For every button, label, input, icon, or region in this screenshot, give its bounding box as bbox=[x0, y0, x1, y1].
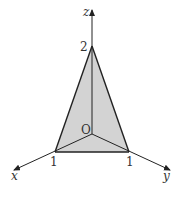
x-axis-label: x bbox=[11, 169, 18, 183]
tetrahedron-diagram: z 2 O 1 1 x y bbox=[0, 0, 184, 199]
origin-label: O bbox=[81, 123, 91, 137]
y-axis-label: y bbox=[162, 169, 170, 183]
x-intercept-label: 1 bbox=[50, 155, 58, 169]
z-axis-label: z bbox=[82, 5, 90, 19]
y-intercept-label: 1 bbox=[126, 155, 134, 169]
z-intercept-label: 2 bbox=[80, 40, 88, 54]
